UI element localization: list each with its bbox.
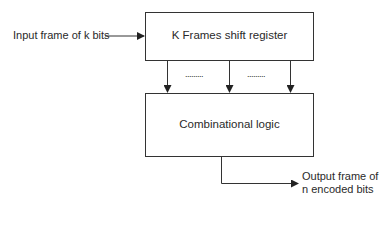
ellipsis-left: .........: [185, 68, 203, 81]
combinational-logic-label: Combinational logic: [146, 118, 313, 130]
output-label-line1: Output frame of: [302, 170, 378, 183]
ellipsis-right: .........: [247, 68, 265, 81]
output-arrow: [222, 157, 299, 184]
output-label-line2: n encoded bits: [302, 183, 374, 196]
input-label: Input frame of k bits: [13, 29, 110, 42]
shift-register-label: K Frames shift register: [146, 29, 313, 41]
